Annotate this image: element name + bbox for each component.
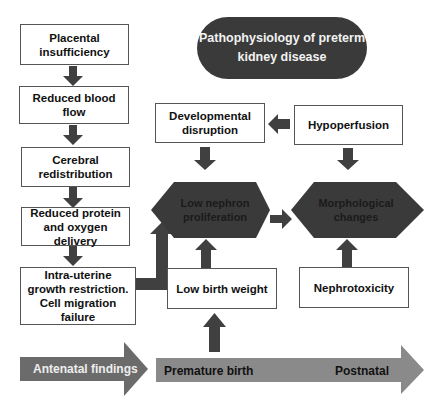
box-iugr: Intra-uterine growth restriction. Cell m… <box>20 267 136 325</box>
arrow-down-hypo <box>337 148 359 170</box>
box-label: Hypoperfusion <box>308 118 389 132</box>
arrow-down-2 <box>63 125 83 145</box>
hexagon-label-morphological: Morphological changes <box>318 186 394 234</box>
arrow-down-1 <box>63 66 83 86</box>
arrow-right-hex <box>270 209 292 229</box>
arrow-up-lbw <box>195 239 217 268</box>
timeline-label-premature-birth: Premature birth <box>164 364 253 378</box>
arrow-up-premature <box>203 313 226 352</box>
timeline-label-antenatal: Antenatal findings <box>33 362 138 376</box>
box-label: Nephrotoxicity <box>314 281 395 295</box>
box-label: Developmental disruption <box>159 109 261 137</box>
box-label: Low birth weight <box>176 282 267 296</box>
box-nephrotoxicity: Nephrotoxicity <box>299 267 409 308</box>
box-low-birth-weight: Low birth weight <box>167 268 277 309</box>
diagram-title: Pathophysiology of preterm kidney diseas… <box>197 17 367 79</box>
hexagon-label-low-nephron: Low nephron proliferation <box>180 186 250 234</box>
box-reduced-blood-flow: Reduced blood flow <box>19 86 129 124</box>
box-cerebral-redistribution: Cerebral redistribution <box>21 147 130 187</box>
box-label: Cerebral redistribution <box>25 153 126 181</box>
box-hypoperfusion: Hypoperfusion <box>294 105 403 145</box>
box-label: Intra-uterine growth restriction. Cell m… <box>24 268 132 324</box>
arrow-down-devdis <box>194 147 216 170</box>
box-reduced-protein-oxygen: Reduced protein and oxygen delivery <box>21 207 130 246</box>
timeline-label-postnatal: Postnatal <box>335 364 389 378</box>
box-label: Reduced blood flow <box>23 91 125 119</box>
arrow-left-hypo <box>268 114 290 134</box>
box-label: Placental insufficiency <box>24 31 125 59</box>
box-placental-insufficiency: Placental insufficiency <box>20 24 129 65</box>
box-developmental-disruption: Developmental disruption <box>155 103 265 143</box>
arrow-up-nephro <box>336 239 358 268</box>
arrow-down-4 <box>63 246 83 266</box>
box-label: Reduced protein and oxygen delivery <box>25 206 126 248</box>
